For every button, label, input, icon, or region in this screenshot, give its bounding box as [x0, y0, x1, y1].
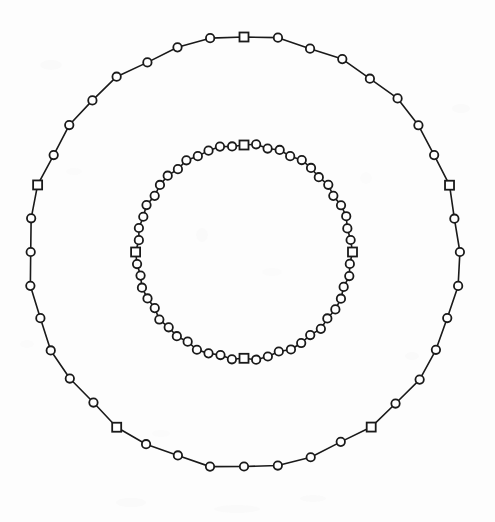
marker-circle [342, 212, 350, 220]
marker-circle [133, 260, 141, 268]
marker-circle [287, 345, 295, 353]
marker-circle [346, 260, 354, 268]
marker-circle [193, 346, 201, 354]
plot-background [0, 0, 495, 522]
marker-circle [204, 349, 212, 357]
marker-circle [142, 440, 150, 448]
marker-circle [155, 315, 163, 323]
marker-circle [337, 294, 345, 302]
marker-circle [183, 337, 191, 345]
marker-circle [393, 94, 401, 102]
marker-circle [343, 224, 351, 232]
plot-background-layer [0, 0, 495, 522]
marker-circle [240, 462, 248, 470]
marker-circle [307, 164, 315, 172]
marker-circle [276, 146, 284, 154]
marker-circle [174, 451, 182, 459]
marker-circle [27, 214, 35, 222]
marker-circle [443, 314, 451, 322]
orbit-plot [0, 0, 495, 522]
marker-circle [252, 356, 260, 364]
marker-circle [112, 72, 120, 80]
marker-square [240, 33, 249, 42]
marker-circle [173, 43, 181, 51]
marker-circle [27, 248, 35, 256]
marker-circle [274, 461, 282, 469]
marker-circle [49, 151, 57, 159]
marker-circle [306, 453, 314, 461]
marker-circle [263, 144, 271, 152]
marker-circle [135, 236, 143, 244]
marker-circle [346, 236, 354, 244]
marker-circle [228, 355, 236, 363]
marker-circle [306, 331, 314, 339]
marker-circle [297, 339, 305, 347]
marker-square [445, 181, 454, 190]
marker-circle [151, 304, 159, 312]
marker-circle [331, 305, 339, 313]
marker-circle [228, 142, 236, 150]
marker-circle [138, 284, 146, 292]
marker-circle [338, 55, 346, 63]
marker-circle [275, 347, 283, 355]
marker-circle [317, 325, 325, 333]
marker-circle [173, 332, 181, 340]
marker-circle [366, 75, 374, 83]
marker-square [367, 423, 376, 432]
marker-circle [432, 346, 440, 354]
marker-circle [36, 314, 44, 322]
marker-circle [315, 173, 323, 181]
marker-circle [298, 156, 306, 164]
marker-circle [136, 271, 144, 279]
marker-circle [164, 172, 172, 180]
marker-circle [337, 438, 345, 446]
marker-square [112, 423, 121, 432]
marker-circle [89, 398, 97, 406]
marker-circle [164, 323, 172, 331]
marker-circle [337, 201, 345, 209]
marker-circle [142, 201, 150, 209]
marker-circle [66, 374, 74, 382]
marker-circle [143, 294, 151, 302]
marker-circle [26, 282, 34, 290]
marker-circle [216, 351, 224, 359]
marker-circle [139, 213, 147, 221]
marker-circle [274, 33, 282, 41]
marker-circle [339, 283, 347, 291]
marker-circle [156, 181, 164, 189]
marker-circle [306, 44, 314, 52]
marker-circle [264, 352, 272, 360]
marker-circle [414, 121, 422, 129]
figure-root [0, 0, 495, 522]
marker-circle [204, 146, 212, 154]
marker-circle [216, 142, 224, 150]
marker-square [240, 354, 249, 363]
marker-circle [323, 314, 331, 322]
marker-circle [324, 181, 332, 189]
marker-circle [194, 152, 202, 160]
marker-circle [143, 58, 151, 66]
marker-circle [456, 248, 464, 256]
marker-circle [150, 192, 158, 200]
marker-circle [430, 151, 438, 159]
marker-circle [415, 375, 423, 383]
marker-circle [206, 462, 214, 470]
marker-circle [329, 192, 337, 200]
marker-circle [286, 152, 294, 160]
marker-square [131, 248, 140, 257]
marker-circle [65, 121, 73, 129]
marker-circle [88, 96, 96, 104]
marker-circle [174, 165, 182, 173]
marker-circle [454, 282, 462, 290]
marker-circle [450, 214, 458, 222]
marker-circle [391, 399, 399, 407]
marker-square [240, 141, 249, 150]
marker-circle [345, 272, 353, 280]
marker-circle [135, 224, 143, 232]
marker-circle [182, 156, 190, 164]
marker-circle [47, 346, 55, 354]
marker-circle [252, 140, 260, 148]
marker-square [348, 248, 357, 257]
marker-square [33, 180, 42, 189]
marker-circle [206, 34, 214, 42]
